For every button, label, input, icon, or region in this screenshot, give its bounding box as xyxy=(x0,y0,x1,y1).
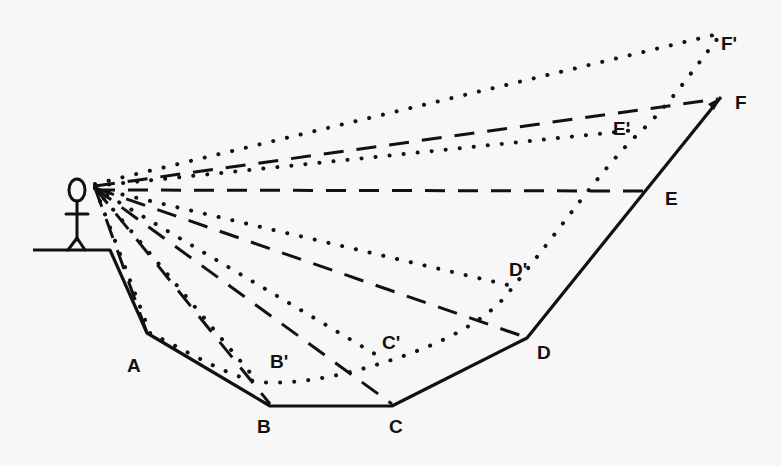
apparent-profile xyxy=(150,33,722,383)
refraction-diagram: A B C D E F B' C' D' E' F' xyxy=(0,0,781,466)
label-d: D xyxy=(537,342,551,363)
label-e: E xyxy=(665,188,678,209)
dotted-line-e-prime xyxy=(95,130,636,186)
observer-left-leg xyxy=(68,238,77,250)
actual-point-labels: A B C D E F xyxy=(127,92,747,437)
sightline-a xyxy=(95,188,147,333)
diagram-canvas: A B C D E F B' C' D' E' F' xyxy=(0,0,781,466)
observer-figure xyxy=(66,179,88,250)
observer-right-leg xyxy=(77,238,85,250)
label-c: C xyxy=(389,416,403,437)
dotted-sight-lines xyxy=(95,33,722,382)
sightline-e xyxy=(95,190,645,191)
observer-head xyxy=(69,179,85,201)
label-d-prime: D' xyxy=(509,259,527,280)
label-c-prime: C' xyxy=(382,332,400,353)
sightline-f xyxy=(95,99,718,186)
dotted-line-d-prime xyxy=(95,188,512,286)
label-e-prime: E' xyxy=(613,118,630,139)
label-a: A xyxy=(127,355,141,376)
arrowhead-f xyxy=(708,97,721,110)
label-f-prime: F' xyxy=(721,33,737,54)
dotted-line-c-prime xyxy=(95,188,385,360)
dotted-line-f-prime xyxy=(95,33,722,184)
label-b-prime: B' xyxy=(270,351,288,372)
label-b: B xyxy=(257,416,271,437)
label-f: F xyxy=(735,92,747,113)
